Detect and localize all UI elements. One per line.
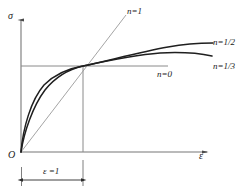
- y-axis-label: σ: [8, 11, 13, 21]
- plot-canvas: [0, 0, 244, 193]
- curve-label-n-one-third: n=1/3: [213, 62, 235, 71]
- dimension-label-epsilon-unity: ε =1: [43, 167, 59, 176]
- x-axis-label: ε: [199, 151, 203, 161]
- curve-n-1: [21, 15, 126, 152]
- stress-strain-figure: σ ε O n=1 n=1/2 n=1/3 n=0 ε =1: [0, 0, 244, 193]
- origin-label: O: [8, 150, 15, 160]
- curve-label-n-zero: n=0: [157, 70, 172, 79]
- curve-label-n-1: n=1: [127, 7, 142, 16]
- curve-label-n-one-half: n=1/2: [213, 38, 235, 47]
- curve-n-one-third: [21, 53, 212, 152]
